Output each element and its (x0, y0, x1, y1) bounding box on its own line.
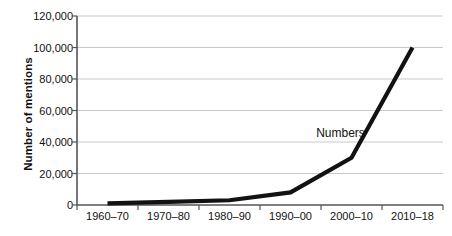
data-line-numbers (108, 48, 413, 204)
plot-area (0, 0, 452, 236)
x-axis-ticks (77, 205, 443, 210)
x-axis-tick-label: 2000–10 (330, 210, 373, 222)
x-axis-tick-label: 1970–80 (147, 210, 190, 222)
x-axis-tick-label: 1980–90 (208, 210, 251, 222)
chart-container: Number of mentions 020,00040,00060,00080… (0, 0, 452, 236)
x-axis-tick-label: 1990–00 (269, 210, 312, 222)
x-axis-tick-label: 1960–70 (86, 210, 129, 222)
series-label-numbers: Numbers (316, 126, 365, 140)
x-axis-tick-label: 2010–18 (391, 210, 434, 222)
